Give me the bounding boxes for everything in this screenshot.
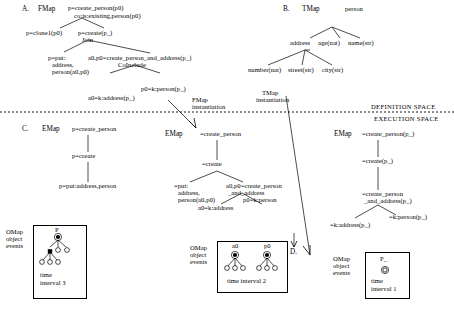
omap2-root-label-a: a0: [232, 243, 238, 250]
tmap-node-name: name(str): [348, 40, 374, 47]
fmap-node-person: p0=k:person(p_): [141, 86, 186, 93]
diagram-canvas: A. FMap p=create_person(p0) co:is:existi…: [0, 0, 454, 309]
omap2-box: [217, 241, 288, 293]
omap2-label-line3: events: [190, 259, 207, 266]
section-b-map-label: TMap: [302, 6, 320, 13]
emap-right-node-create: =create(p_): [362, 158, 393, 165]
emap-right-cpa-line2: _and_address(p_): [364, 198, 412, 205]
emap-right-person: =k:person(p_): [389, 214, 427, 221]
omap1-interval-line2: interval 3: [40, 280, 66, 287]
tmap-node-address: address: [290, 40, 310, 47]
emap-mid-map-label: EMap: [165, 131, 183, 138]
omap3-label-line3: events: [333, 270, 350, 277]
omap1-box: [33, 225, 87, 299]
fmap-node-cpa-line2: CoInclude: [118, 62, 146, 69]
section-b-letter: B.: [283, 6, 290, 13]
emap-right-address: =k:address(p_): [330, 222, 370, 229]
tmap-node-number: number(nat): [248, 67, 281, 74]
omap3-interval-line1: time: [371, 278, 383, 285]
emap-mid-person: p0=k:person: [243, 197, 277, 204]
fmap-node-clone: p=clone1(p0): [26, 30, 62, 37]
omap3-interval-line2: interval 1: [371, 286, 397, 293]
emap-mid-address: a0=k:address: [198, 205, 233, 212]
fmap-node-create-line2: Join: [82, 37, 93, 44]
fmap-node-address: a0=k:address(p_): [88, 95, 135, 102]
emap-c-leaf: p=put:address,person: [59, 183, 116, 190]
execution-space-label: EXECUTION SPACE: [374, 116, 439, 123]
emap-mid-node-create: =create: [202, 161, 222, 168]
tmap-node-street: street(str): [288, 67, 314, 74]
fmap-node-put-line3: person(a0,p0): [52, 69, 89, 76]
emap-c-mid: p=create: [72, 153, 95, 160]
section-c-map-label: EMap: [42, 126, 60, 133]
tmap-node-city: city(str): [322, 67, 343, 74]
emap-c-root: p=create_person: [72, 126, 116, 133]
emap-mid-put-line3: person(a0,p0): [178, 197, 215, 204]
omap1-root-label: P: [55, 227, 59, 234]
omap2-interval: time interval 2: [227, 278, 266, 285]
section-a-map-label: FMap: [38, 6, 55, 13]
tmap-node-age: age(nat): [318, 40, 340, 47]
fmap-instantiation-line2: instantiation: [192, 104, 225, 111]
omap1-label-line3: events: [6, 243, 23, 250]
tmap-node-person: person: [345, 6, 363, 13]
definition-space-label: DEFINITION SPACE: [371, 104, 436, 111]
omap2-root-label-b: p0: [264, 243, 271, 250]
fmap-root-line2: co:is:existing,person(p0): [74, 13, 141, 20]
emap-right-root: =create_person(p_): [362, 131, 414, 138]
section-c-letter: C.: [22, 126, 29, 133]
fmap-root-line1: p=create_person(p0): [68, 5, 124, 12]
omap1-interval-line1: time: [40, 272, 52, 279]
section-d-letter: D.: [290, 249, 297, 256]
tmap-instantiation-line2: instantiation: [256, 97, 289, 104]
emap-mid-root: =create_person: [200, 131, 241, 138]
emap-right-map-label: EMap: [334, 131, 352, 138]
omap3-root-label: P_: [380, 256, 387, 263]
section-a-letter: A.: [22, 6, 29, 13]
